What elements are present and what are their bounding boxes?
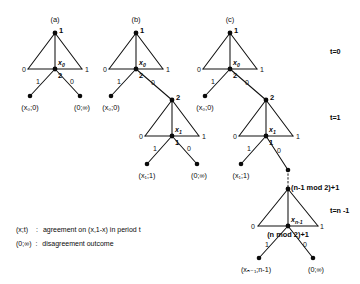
- legend-key-1: (0;∞): [16, 240, 32, 248]
- period-label-t1: t=1: [330, 113, 341, 122]
- figure-canvas: (a) 1 2 0 1 x0 1 0 (x₀;0) (0;∞) (b) 1: [0, 0, 360, 284]
- legend-sep-0: :: [36, 226, 38, 233]
- panel-a-label: (a): [50, 15, 60, 24]
- edge-c3-reject-label: 0: [303, 241, 307, 248]
- leaf-a-left-label: (x₀;0): [21, 103, 38, 112]
- legend-sep-1: :: [35, 240, 37, 247]
- leaf-b-left-label: (x₀;0): [102, 103, 119, 112]
- edge-c2-accept-label: 1: [247, 145, 251, 152]
- edge-c2-accept: [241, 136, 266, 164]
- edge-c-accept: [205, 69, 230, 96]
- leaf-a-right-label: (0;∞): [74, 103, 90, 112]
- edge-a-label-zero: 0: [22, 66, 26, 73]
- edge-b-accept-label: 1: [117, 78, 121, 85]
- leaf-c-bottom-left-label: (xₙ₋₁;n-1): [241, 265, 271, 274]
- panel-b: (b) 1 2 0 1 x0 1 0 (x₀;0) 2 1 0 1 x1: [102, 15, 207, 180]
- legend: (x;t) : agreement on (x,1-x) in period t…: [16, 226, 141, 248]
- edge-b-reject-label: 0: [151, 79, 155, 86]
- node-b-player1-label: 1: [140, 26, 144, 35]
- legend-desc-1: disagreement outcome: [42, 240, 113, 248]
- node-a-leaf-right: [78, 94, 83, 99]
- node-b2-leaf-left: [145, 162, 150, 167]
- edge-a-reject-label: 0: [70, 78, 74, 85]
- node-c2-leaf-left: [239, 162, 244, 167]
- edge-b2-reject: [172, 136, 197, 164]
- edge-c3-label-zero: 0: [251, 223, 255, 230]
- edge-b2-label-zero: 0: [139, 133, 143, 140]
- edge-a-accept: [30, 69, 55, 96]
- node-b-leaf-left: [109, 94, 114, 99]
- node-a-leaf-left: [28, 94, 33, 99]
- edge-c2-reject-label: 0: [277, 147, 281, 154]
- edge-b2-accept: [147, 136, 172, 164]
- node-c2-player2: [264, 98, 269, 103]
- legend-desc-0: agreement on (x,1-x) in period t: [43, 226, 141, 234]
- edge-c2-label-one: 1: [296, 133, 300, 140]
- panel-a: (a) 1 2 0 1 x0 1 0 (x₀;0) (0;∞): [21, 15, 90, 112]
- edge-b2-label-one: 1: [202, 133, 206, 140]
- edge-c-reject-label: 0: [245, 79, 249, 86]
- node-c3-upper-player: [286, 187, 291, 192]
- edge-c-accept-label: 1: [211, 78, 215, 85]
- node-b-player1: [134, 31, 139, 36]
- edge-a-apex-left: [28, 33, 55, 69]
- node-c3-upper-player-label: (n-1 mod 2)+1: [291, 183, 339, 192]
- panel-b-label: (b): [131, 15, 141, 24]
- edge-c2-apex-left: [239, 100, 266, 136]
- node-c3-leaf-right: [311, 256, 316, 261]
- node-b2-leaf-right: [195, 162, 200, 167]
- edge-c3-label-one: 1: [320, 223, 324, 230]
- edge-c-label-one: 1: [260, 66, 264, 73]
- period-label-t0: t=0: [330, 47, 341, 56]
- node-b2-player2-label: 2: [176, 93, 180, 102]
- edge-b2-apex-left: [145, 100, 172, 136]
- period-label-tn: t=n -1: [330, 206, 349, 215]
- leaf-b-mid-label: (x₁;1): [139, 171, 156, 180]
- game-tree-figure: (a) 1 2 0 1 x0 1 0 (x₀;0) (0;∞) (b) 1: [0, 0, 360, 284]
- node-b2-player2: [170, 98, 175, 103]
- edge-c3-accept-label: 1: [265, 241, 269, 248]
- offer-a-x0: x0: [57, 59, 65, 68]
- edge-a-reject: [55, 69, 80, 96]
- node-c-player1: [228, 31, 233, 36]
- node-c3-leaf-left: [257, 256, 262, 261]
- offer-c-x0: x0: [232, 59, 240, 68]
- panel-c: (c) 1 2 0 1 x0 1 0 (x₀;0) 2 1 0 1 x1: [196, 15, 339, 274]
- edge-c-apex-left: [203, 33, 230, 69]
- legend-row-1: (0;∞) : disagreement outcome: [16, 240, 114, 248]
- leaf-c-bottom-right-label: (0;∞): [308, 265, 324, 274]
- edge-c3-apex-left: [258, 189, 288, 226]
- node-c-leaf-left: [203, 94, 208, 99]
- edge-c-label-zero: 0: [197, 66, 201, 73]
- edge-b2-reject-label: 0: [187, 145, 191, 152]
- node-c-player1-label: 1: [234, 26, 238, 35]
- leaf-c-mid-label: (x₁;1): [233, 171, 250, 180]
- legend-row-0: (x;t) : agreement on (x,1-x) in period t: [16, 226, 141, 234]
- leaf-c-left-label: (x₀;0): [196, 103, 213, 112]
- panel-c-label: (c): [226, 15, 235, 24]
- node-a-player1: [53, 31, 58, 36]
- legend-key-0: (x;t): [16, 226, 28, 234]
- edge-a-accept-label: 1: [36, 78, 40, 85]
- offer-b-x0: x0: [138, 59, 146, 68]
- edge-a-label-one: 1: [85, 66, 89, 73]
- offer-c-xn: xn-1: [290, 216, 303, 225]
- edge-c2-label-zero: 0: [233, 133, 237, 140]
- leaf-b-right-label: (0;∞): [191, 171, 207, 180]
- node-c2-player2-label: 2: [270, 93, 274, 102]
- edge-b-label-zero: 0: [103, 66, 107, 73]
- edge-b2-accept-label: 1: [153, 145, 157, 152]
- edge-b-label-one: 1: [166, 66, 170, 73]
- edge-b-apex-left: [109, 33, 136, 69]
- node-a-player1-label: 1: [59, 26, 63, 35]
- edge-b-accept: [111, 69, 136, 96]
- offer-b-x1: x1: [174, 126, 182, 135]
- offer-c-x1: x1: [268, 126, 276, 135]
- node-c3-lower-player-label: (n mod 2)+1: [267, 230, 309, 239]
